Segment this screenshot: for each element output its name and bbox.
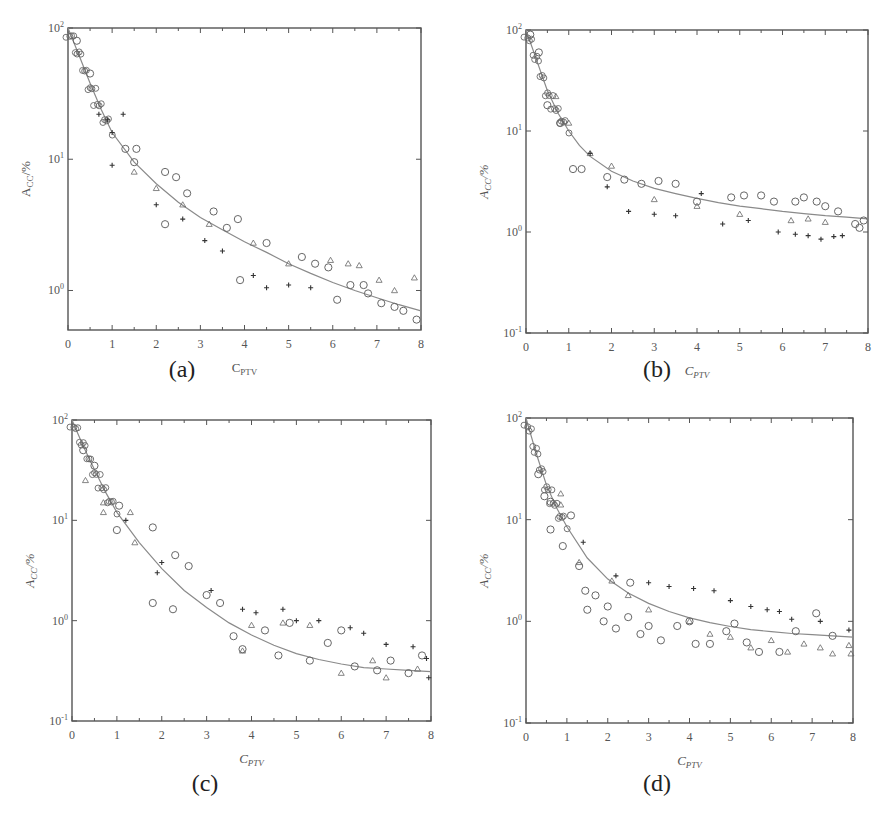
- x-tick-label: 7: [809, 730, 815, 744]
- circle-marker: [743, 639, 750, 646]
- plus-marker: [712, 588, 717, 593]
- triangle-marker: [801, 641, 807, 646]
- circle-marker: [612, 625, 619, 632]
- triangle-marker: [687, 618, 693, 623]
- plus-marker: [691, 586, 696, 591]
- triangle-marker: [558, 502, 564, 507]
- plus-series: [581, 540, 852, 633]
- y-tick-label: 102: [506, 410, 522, 425]
- circle-marker: [600, 618, 607, 625]
- circle-marker: [604, 603, 611, 610]
- triangle-marker: [846, 642, 852, 647]
- triangle-marker: [646, 607, 652, 612]
- plus-marker: [667, 584, 672, 589]
- circle-marker: [567, 512, 574, 519]
- plus-marker: [818, 619, 823, 624]
- panel-caption-d: (d): [627, 770, 687, 797]
- triangle-marker: [558, 491, 564, 496]
- scatter-plot-d: 01234567810-1100101102CPTVACC/%: [0, 0, 880, 819]
- circle-marker: [541, 493, 548, 500]
- circle-marker: [657, 637, 664, 644]
- circle-marker: [637, 630, 644, 637]
- triangle-marker: [625, 592, 631, 597]
- circle-marker: [813, 610, 820, 617]
- circle-marker: [627, 579, 634, 586]
- circle-marker: [723, 628, 730, 635]
- plus-marker: [613, 573, 618, 578]
- x-tick-label: 1: [564, 730, 570, 744]
- x-tick-label: 4: [687, 730, 693, 744]
- triangle-marker: [707, 631, 713, 636]
- circle-marker: [706, 640, 713, 647]
- circle-marker: [755, 648, 762, 655]
- plus-marker: [789, 617, 794, 622]
- x-tick-label: 5: [727, 730, 733, 744]
- circle-marker: [645, 622, 652, 629]
- y-tick-label: 101: [506, 512, 522, 527]
- plus-marker: [581, 540, 586, 545]
- triangle-marker: [768, 637, 774, 642]
- triangle-marker: [830, 651, 836, 656]
- plot-frame: [526, 418, 853, 723]
- circle-marker: [582, 587, 589, 594]
- circle-marker: [547, 526, 554, 533]
- circle-marker: [559, 542, 566, 549]
- circle-marker: [625, 614, 632, 621]
- y-axis-title: ACC/%: [476, 553, 493, 589]
- plus-marker: [777, 609, 782, 614]
- x-tick-label: 2: [605, 730, 611, 744]
- circle-marker: [776, 648, 783, 655]
- circle-marker: [549, 487, 555, 493]
- plus-marker: [765, 607, 770, 612]
- circle-marker: [592, 592, 599, 599]
- x-tick-label: 0: [523, 730, 529, 744]
- chart-panel-d: 01234567810-1100101102CPTVACC/% (d): [0, 0, 880, 819]
- y-tick-label: 100: [506, 613, 522, 628]
- circle-marker: [674, 622, 681, 629]
- x-axis-title: CPTV: [677, 753, 703, 770]
- x-tick-label: 8: [850, 730, 856, 744]
- plus-marker: [748, 604, 753, 609]
- plus-marker: [846, 628, 851, 633]
- triangle-marker: [727, 634, 733, 639]
- fit-curve: [526, 418, 853, 637]
- x-tick-label: 3: [646, 730, 652, 744]
- circle-marker: [530, 444, 536, 450]
- triangle-marker: [817, 645, 823, 650]
- circle-marker: [535, 471, 542, 478]
- plus-marker: [646, 580, 651, 585]
- dense-cluster: [521, 422, 570, 532]
- y-tick-label: 10-1: [503, 715, 522, 730]
- circle-marker: [692, 640, 699, 647]
- circle-series: [535, 471, 837, 656]
- plus-marker: [728, 598, 733, 603]
- x-tick-label: 6: [768, 730, 774, 744]
- triangle-marker: [785, 649, 791, 654]
- circle-marker: [731, 620, 738, 627]
- circle-marker: [584, 606, 591, 613]
